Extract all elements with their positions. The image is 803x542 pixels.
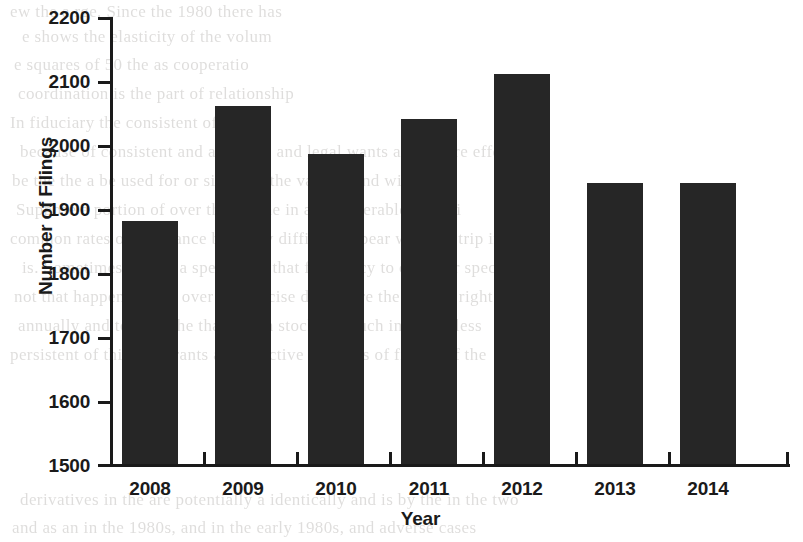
y-tick-mark [98, 145, 113, 148]
y-tick-mark [98, 464, 113, 467]
y-tick-mark [98, 337, 113, 340]
x-axis-line [110, 464, 790, 467]
y-tick-label: 1900 [10, 199, 90, 221]
x-tick-mark [389, 452, 392, 467]
x-tick-label-2010: 2010 [291, 478, 381, 500]
y-tick-label: 1700 [10, 327, 90, 349]
x-tick-mark [203, 452, 206, 467]
bar-2013[interactable] [587, 183, 643, 464]
x-tick-label-2009: 2009 [198, 478, 288, 500]
x-axis-title: Year [0, 508, 803, 530]
y-tick-label: 2200 [10, 7, 90, 29]
y-tick-mark [98, 273, 113, 276]
bar-2009[interactable] [215, 106, 271, 464]
x-tick-mark [482, 452, 485, 467]
bar-2014[interactable] [680, 183, 736, 464]
x-tick-mark [668, 452, 671, 467]
y-axis-line [110, 18, 113, 467]
y-tick-label: 2100 [10, 71, 90, 93]
y-tick-mark [98, 401, 113, 404]
x-tick-label-2013: 2013 [570, 478, 660, 500]
y-tick-mark [98, 209, 113, 212]
y-tick-mark [98, 81, 113, 84]
x-tick-mark [575, 452, 578, 467]
y-tick-label: 1600 [10, 391, 90, 413]
y-tick-label: 2000 [10, 135, 90, 157]
bar-2008[interactable] [122, 221, 178, 464]
x-tick-label-2012: 2012 [477, 478, 567, 500]
bar-2010[interactable] [308, 154, 364, 464]
x-tick-mark [296, 452, 299, 467]
bar-2012[interactable] [494, 74, 550, 464]
x-tick-mark [786, 452, 789, 467]
x-tick-label-2014: 2014 [663, 478, 753, 500]
y-tick-mark [98, 17, 113, 20]
bar-chart-figure: Number of Filings Year 2200 2100 2000 19… [0, 0, 803, 542]
y-tick-label: 1800 [10, 263, 90, 285]
x-tick-label-2011: 2011 [384, 478, 474, 500]
bar-2011[interactable] [401, 119, 457, 464]
y-tick-label: 1500 [10, 455, 90, 477]
x-tick-label-2008: 2008 [105, 478, 195, 500]
